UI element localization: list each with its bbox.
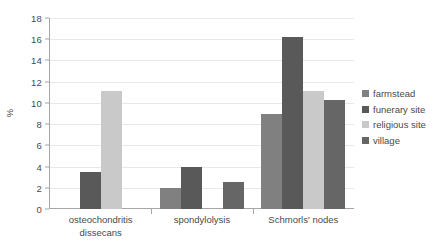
legend-swatch-icon	[362, 90, 369, 97]
y-axis-tick-mark	[45, 187, 49, 188]
bar-slot	[223, 18, 244, 209]
y-axis-tick-label: 8	[37, 119, 42, 130]
legend-label: funerary site	[373, 104, 425, 115]
bar-slot	[324, 18, 345, 209]
legend-swatch-icon	[362, 106, 369, 113]
bar[interactable]	[303, 91, 324, 209]
legend-item[interactable]: village	[362, 135, 426, 146]
bar-groups	[50, 18, 354, 209]
x-axis-labels: osteochondritisdissecansspondylolysisSch…	[50, 214, 354, 239]
legend-item[interactable]: religious site	[362, 119, 426, 130]
x-axis-category-label: osteochondritisdissecans	[50, 214, 151, 239]
bar-chart: 024681012141618 % osteochondritisdisseca…	[0, 0, 444, 249]
bar[interactable]	[160, 188, 181, 209]
y-axis-tick-label: 14	[31, 55, 42, 66]
legend-swatch-icon	[362, 137, 369, 144]
legend-item[interactable]: funerary site	[362, 104, 426, 115]
y-axis: 024681012141618	[0, 0, 49, 215]
legend: farmsteadfunerary sitereligious sitevill…	[362, 88, 426, 146]
y-axis-tick-label: 6	[37, 140, 42, 151]
bar[interactable]	[261, 114, 282, 210]
y-axis-tick-mark	[45, 18, 49, 19]
bar[interactable]	[282, 37, 303, 209]
y-axis-tick-label: 4	[37, 161, 42, 172]
bar[interactable]	[101, 91, 122, 209]
y-axis-tick-mark	[45, 39, 49, 40]
bar-group	[151, 18, 252, 209]
bar[interactable]	[324, 100, 345, 209]
y-axis-tick-mark	[45, 209, 49, 210]
x-axis-category-label: spondylolysis	[151, 214, 252, 239]
bar[interactable]	[80, 172, 101, 209]
bar-slot	[59, 18, 80, 209]
y-axis-tick-mark	[45, 145, 49, 146]
y-axis-tick-label: 12	[31, 76, 42, 87]
y-axis-tick-mark	[45, 166, 49, 167]
bar-slot	[303, 18, 324, 209]
bar[interactable]	[181, 167, 202, 209]
y-axis-tick-mark	[45, 102, 49, 103]
bar-slot	[282, 18, 303, 209]
bar-slot	[160, 18, 181, 209]
legend-swatch-icon	[362, 121, 369, 128]
y-axis-tick-label: 10	[31, 97, 42, 108]
bar-slot	[122, 18, 143, 209]
bar-group	[253, 18, 354, 209]
bar-group	[50, 18, 151, 209]
y-axis-tick-label: 18	[31, 13, 42, 24]
bar[interactable]	[223, 182, 244, 209]
gridline	[50, 209, 354, 210]
bar-slot	[181, 18, 202, 209]
x-axis-category-label: Schmorls' nodes	[253, 214, 354, 239]
y-axis-tick-label: 0	[37, 204, 42, 215]
y-axis-tick-mark	[45, 124, 49, 125]
bar-slot	[101, 18, 122, 209]
y-axis-tick-mark	[45, 81, 49, 82]
bar-slot	[80, 18, 101, 209]
legend-label: religious site	[373, 119, 426, 130]
legend-label: village	[373, 135, 400, 146]
legend-item[interactable]: farmstead	[362, 88, 426, 99]
bar-slot	[261, 18, 282, 209]
legend-label: farmstead	[373, 88, 415, 99]
y-axis-tick-label: 16	[31, 34, 42, 45]
bar-slot	[202, 18, 223, 209]
y-axis-tick-label: 2	[37, 182, 42, 193]
y-axis-title: %	[4, 109, 15, 117]
y-axis-tick-mark	[45, 60, 49, 61]
